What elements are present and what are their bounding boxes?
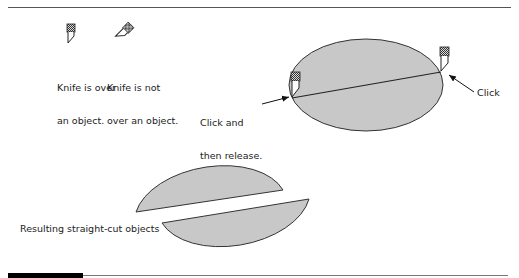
start-step-label: Click and then release. <box>200 95 262 172</box>
start-step-label-line1: Click and <box>200 117 262 128</box>
knife-tilted-icon <box>115 22 134 41</box>
bottom-block <box>8 273 83 278</box>
knife-not-over-label-line2: over an object. <box>107 115 178 126</box>
knife-not-over-label-line1: Knife is not <box>107 82 178 93</box>
result-top-piece <box>136 166 283 212</box>
result-bottom-piece <box>162 199 309 247</box>
target-ellipse <box>289 39 443 131</box>
end-step-label: Click <box>477 87 500 98</box>
start-step-label-line2: then release. <box>200 150 262 161</box>
knife-end-icon <box>440 47 449 71</box>
result-label: Resulting straight-cut objects <box>20 223 160 234</box>
end-arrow <box>449 75 474 92</box>
bottom-rule <box>8 275 508 276</box>
knife-upright-icon <box>67 24 75 43</box>
knife-not-over-label: Knife is not over an object. <box>107 60 178 137</box>
start-arrow <box>262 97 289 104</box>
